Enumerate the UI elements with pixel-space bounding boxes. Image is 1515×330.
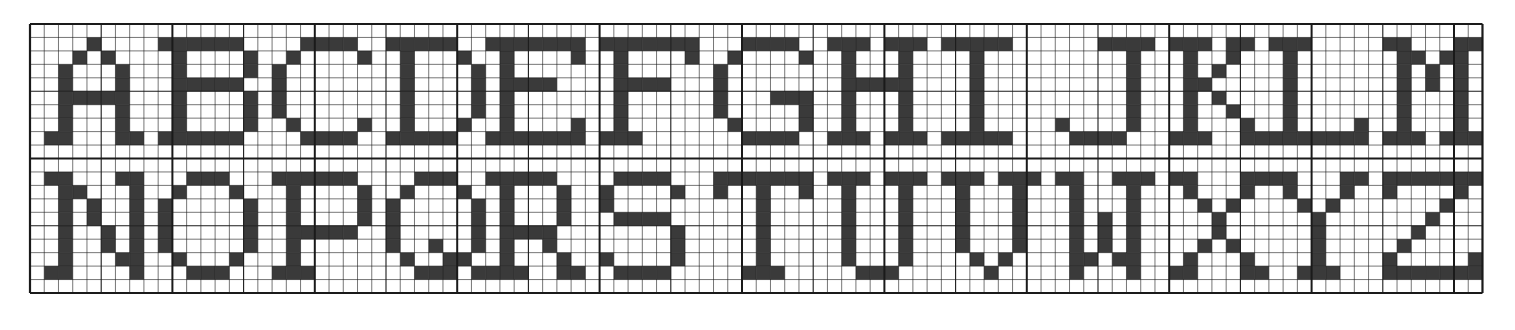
grid-canvas (0, 0, 1515, 330)
grid-lines (30, 24, 1482, 293)
